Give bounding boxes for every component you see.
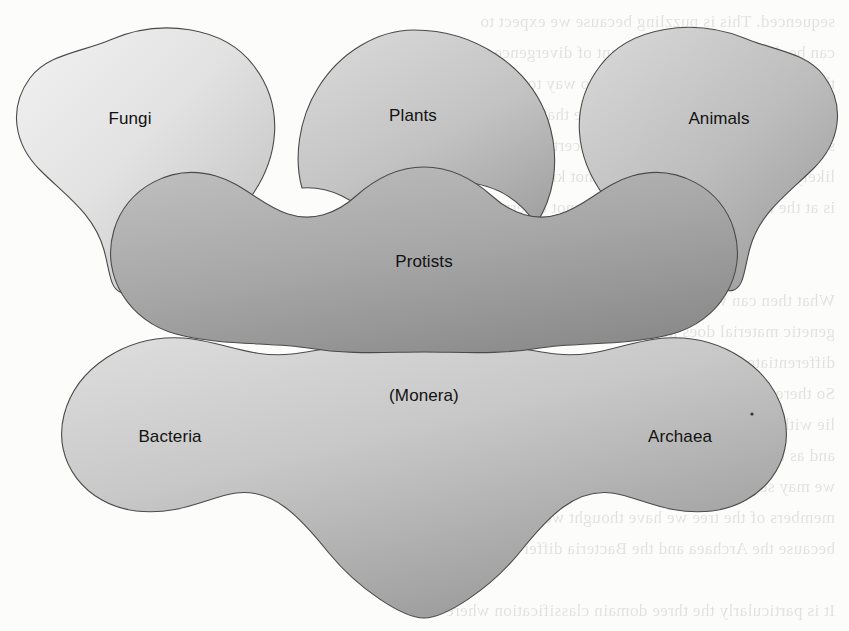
group-monera[interactable]: (Monera) Bacteria Archaea — [62, 335, 787, 618]
label-bacteria: Bacteria — [138, 427, 202, 446]
classification-diagram: sequenced. This is puzzling because we e… — [0, 0, 849, 631]
monera-shape[interactable] — [62, 335, 787, 618]
diagram-canvas: (Monera) Bacteria Archaea Fungi Plants A… — [0, 0, 849, 631]
label-monera: (Monera) — [389, 386, 459, 405]
label-animals: Animals — [688, 109, 749, 128]
label-fungi: Fungi — [108, 109, 151, 128]
group-protists[interactable]: Protists — [111, 167, 738, 353]
scan-speck — [750, 412, 753, 415]
label-plants: Plants — [389, 106, 437, 125]
label-protists: Protists — [395, 252, 452, 271]
label-archaea: Archaea — [648, 427, 712, 446]
